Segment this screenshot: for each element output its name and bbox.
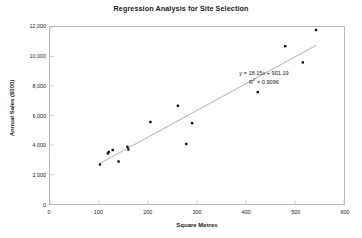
data-point-marker	[127, 148, 129, 150]
data-point-marker	[126, 146, 128, 148]
regression-scatter-chart: Regression Analysis for Site Selection A…	[0, 0, 362, 238]
y-axis-tick-label: 12,000	[30, 23, 47, 29]
r-squared-text: R2 = 0.9096	[218, 77, 310, 86]
chart-title: Regression Analysis for Site Selection	[0, 4, 362, 13]
data-point-marker	[177, 105, 179, 107]
x-axis-tick-label: 600	[341, 209, 350, 215]
x-axis-tick-label: 200	[143, 209, 152, 215]
y-axis-tick-label: 6,000	[33, 113, 47, 119]
trendline	[100, 45, 316, 163]
x-axis-tick-label: 400	[242, 209, 251, 215]
x-axis-tick-label: 300	[193, 209, 202, 215]
data-point-marker	[191, 122, 193, 124]
y-axis-tick-label: 2,000	[33, 172, 47, 178]
plot-area: y = 18.15x + 901.19 R2 = 0.9096	[49, 26, 345, 205]
y-axis-title: Annual Sales ($000)	[9, 58, 15, 158]
plot-svg-layer	[50, 27, 344, 204]
x-axis-title: Square Metres	[49, 222, 345, 228]
x-axis-tick-label: 0	[48, 209, 51, 215]
data-point-marker	[315, 29, 317, 31]
data-point-marker	[112, 149, 114, 151]
y-axis-tick-label: 8,000	[33, 83, 47, 89]
data-point-marker	[108, 151, 110, 153]
r-squared-value: = 0.9096	[255, 79, 278, 85]
regression-annotation: y = 18.15x + 901.19 R2 = 0.9096	[218, 69, 310, 86]
y-axis-tick-labels: 02,0004,0006,0008,00010,00012,000	[18, 26, 46, 205]
data-point-marker	[257, 91, 259, 93]
data-point-marker	[149, 121, 151, 123]
y-axis-tick-label: 4,000	[33, 142, 47, 148]
y-axis-tick-label: 10,000	[30, 53, 47, 59]
y-axis-tick-label: 0	[43, 202, 46, 208]
x-axis-tick-label: 500	[291, 209, 300, 215]
data-point-marker	[185, 143, 187, 145]
data-point-marker	[99, 163, 101, 165]
regression-equation-text: y = 18.15x + 901.19	[218, 69, 310, 77]
data-point-marker	[302, 61, 304, 63]
x-axis-tick-label: 100	[94, 209, 103, 215]
x-axis-tick-labels: 0100200300400500600	[49, 209, 345, 219]
data-point-marker	[284, 45, 286, 47]
data-point-marker	[117, 160, 119, 162]
